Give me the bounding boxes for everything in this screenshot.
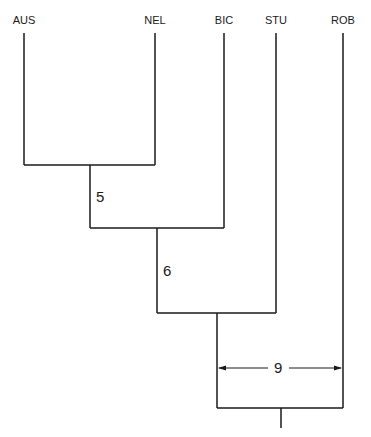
taxon-label-stu: STU <box>265 14 287 26</box>
taxon-label-bic: BIC <box>215 14 233 26</box>
node-label-6: 6 <box>163 263 171 279</box>
taxon-label-nel: NEL <box>144 14 165 26</box>
taxon-label-rob: ROB <box>331 14 355 26</box>
span-label-9: 9 <box>274 360 282 376</box>
arrowhead-left-icon <box>218 366 226 371</box>
arrowhead-right-icon <box>334 366 342 371</box>
dendrogram-lines <box>0 0 371 437</box>
taxon-label-aus: AUS <box>13 14 36 26</box>
node-label-5: 5 <box>96 189 104 205</box>
